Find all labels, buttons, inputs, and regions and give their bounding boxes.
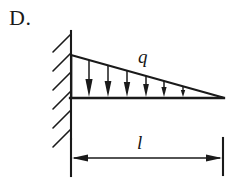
load-arrows-group — [85, 60, 185, 97]
hatch-line — [53, 34, 71, 52]
load-arrow — [143, 76, 149, 97]
hatch-line — [53, 110, 71, 128]
hatch-line — [53, 72, 71, 90]
load-arrow — [105, 65, 112, 97]
load-arrow — [85, 60, 92, 97]
fixed-support-group — [53, 31, 71, 147]
wall-hatching-group — [53, 34, 71, 147]
cantilever-beam-figure: D. — [0, 0, 239, 185]
hatch-line — [53, 129, 71, 147]
hatch-line — [53, 91, 71, 109]
load-symbol-label: q — [138, 47, 148, 66]
load-arrow — [124, 70, 130, 97]
dimension-arrowhead-right — [206, 155, 222, 162]
dimension-arrowhead-left — [72, 155, 88, 162]
load-arrow — [161, 81, 166, 97]
span-dimension-group — [71, 138, 223, 176]
beam-diagram-svg — [0, 0, 239, 185]
hatch-line — [53, 53, 71, 71]
length-symbol-label: l — [137, 133, 142, 152]
